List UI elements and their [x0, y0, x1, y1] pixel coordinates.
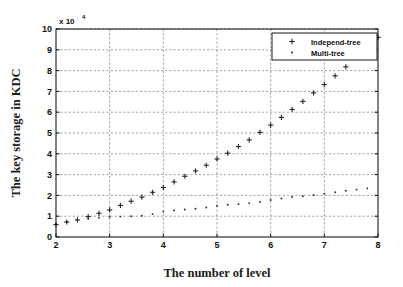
data-point-multi-tree	[162, 211, 164, 213]
chart-canvas: 2345678 012345678910 x 10 4 The number o…	[0, 0, 403, 287]
x-tick-label: 4	[161, 240, 166, 250]
data-point-multi-tree	[205, 207, 207, 209]
y-tick-label: 1	[47, 211, 52, 221]
x-tick-label: 6	[268, 240, 273, 250]
y-tick-label: 6	[47, 107, 52, 117]
legend: Independ-tree Multi-tree	[272, 33, 377, 60]
data-point-multi-tree	[356, 189, 358, 191]
data-point-multi-tree	[280, 198, 282, 200]
data-point-multi-tree	[173, 209, 175, 211]
data-point-multi-tree	[152, 213, 154, 215]
x-tick-label: 3	[107, 240, 112, 250]
x-tick-label: 5	[214, 240, 219, 250]
y-tick-label: 4	[47, 149, 52, 159]
y-axis-multiplier-exponent: 4	[82, 14, 86, 20]
y-tick-label: 9	[47, 45, 52, 55]
legend-marker-dot-icon	[291, 52, 293, 54]
data-point-multi-tree	[259, 201, 261, 203]
data-point-multi-tree	[345, 190, 347, 192]
data-point-multi-tree	[270, 199, 272, 201]
data-point-multi-tree	[366, 187, 368, 189]
data-point-multi-tree	[238, 203, 240, 205]
data-point-multi-tree	[109, 216, 111, 218]
data-point-multi-tree	[184, 209, 186, 211]
x-tick-label: 8	[375, 240, 380, 250]
x-tick-labels: 2345678	[53, 240, 380, 250]
y-axis-multiplier: x 10	[59, 17, 75, 26]
y-tick-label: 0	[47, 232, 52, 242]
data-point-multi-tree	[334, 191, 336, 193]
data-point-multi-tree	[141, 215, 143, 217]
y-tick-label: 10	[42, 24, 52, 34]
legend-label-independ-tree: Independ-tree	[311, 38, 361, 47]
y-tick-labels: 012345678910	[42, 24, 52, 242]
data-point-multi-tree	[119, 216, 121, 218]
data-point-multi-tree	[323, 193, 325, 195]
y-axis-title: The key storage in KDC	[9, 68, 23, 197]
x-axis-title: The number of level	[163, 266, 271, 280]
y-tick-label: 5	[47, 128, 52, 138]
data-point-multi-tree	[195, 208, 197, 210]
y-tick-label: 8	[47, 66, 52, 76]
data-point-multi-tree	[130, 215, 132, 217]
data-point-multi-tree	[227, 204, 229, 206]
data-point-multi-tree	[302, 195, 304, 197]
x-tick-label: 7	[322, 240, 327, 250]
data-point-multi-tree	[98, 217, 100, 219]
data-point-multi-tree	[291, 196, 293, 198]
data-point-multi-tree	[313, 194, 315, 196]
y-tick-label: 7	[47, 87, 52, 97]
data-point-multi-tree	[216, 205, 218, 207]
y-tick-label: 3	[47, 170, 52, 180]
legend-label-multi-tree: Multi-tree	[311, 49, 345, 58]
data-point-multi-tree	[248, 202, 250, 204]
x-tick-label: 2	[53, 240, 58, 250]
y-tick-label: 2	[47, 191, 52, 201]
figure-container: 2345678 012345678910 x 10 4 The number o…	[0, 0, 403, 287]
